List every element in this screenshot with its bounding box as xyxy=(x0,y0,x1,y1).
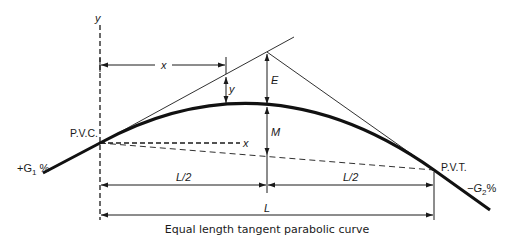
grade-in-label: +G1 % xyxy=(17,162,49,177)
x-dimension-label: x xyxy=(160,59,167,71)
external-distance-label: E xyxy=(271,74,279,86)
y-axis-label: y xyxy=(94,12,102,24)
x-axis-label: x xyxy=(242,137,249,149)
half-length-right-label: L/2 xyxy=(343,171,358,183)
y-offset-label: y xyxy=(228,83,236,95)
vertical-curve-diagram: x y E M L/2 L/2 L y x P.V.C. P.V.T. +G1 … xyxy=(0,0,511,243)
pvc-label: P.V.C. xyxy=(70,127,98,139)
diagram-caption: Equal length tangent parabolic curve xyxy=(165,223,370,236)
half-length-left-label: L/2 xyxy=(176,171,191,183)
pvt-label: P.V.T. xyxy=(441,161,467,173)
middle-ordinate-label: M xyxy=(271,126,281,138)
grade-out-label: −G2% xyxy=(467,182,496,197)
total-length-label: L xyxy=(264,202,270,214)
